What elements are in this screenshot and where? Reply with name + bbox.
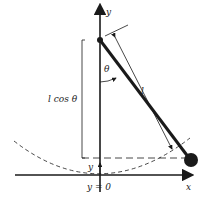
height-label: y — [87, 162, 94, 172]
pendulum-bob — [184, 153, 198, 167]
pendulum-rod — [100, 40, 189, 158]
origin-level-label: y = 0 — [86, 182, 111, 192]
l-cos-theta-label: l cos θ — [48, 94, 78, 104]
swing-arc — [14, 138, 190, 174]
length-dimension — [105, 25, 172, 149]
pendulum-diagram: y x θ l l cos θ y y = 0 — [0, 0, 201, 198]
x-axis-label: x — [186, 182, 191, 192]
length-label: l — [141, 86, 144, 96]
theta-label: θ — [104, 64, 110, 74]
l-cos-theta-bracket — [82, 40, 85, 158]
pivot-point — [97, 37, 103, 43]
angle-arc — [100, 78, 116, 82]
y-axis-label: y — [105, 7, 112, 17]
